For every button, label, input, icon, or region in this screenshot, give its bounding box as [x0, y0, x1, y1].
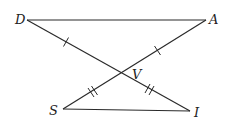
- segment-DI: [27, 20, 190, 111]
- tick-mark-AV: [155, 46, 161, 55]
- segment-SI: [63, 109, 190, 111]
- point-label-I: I: [193, 105, 200, 120]
- geometry-diagram: D A V S I: [0, 0, 227, 127]
- tick-mark-DV: [64, 38, 69, 47]
- segment-AS: [63, 20, 206, 109]
- point-label-S: S: [49, 103, 58, 118]
- point-label-D: D: [14, 12, 26, 27]
- point-label-A: A: [208, 12, 218, 27]
- double-tick-mark-SV: [88, 86, 98, 97]
- point-label-V: V: [132, 67, 143, 82]
